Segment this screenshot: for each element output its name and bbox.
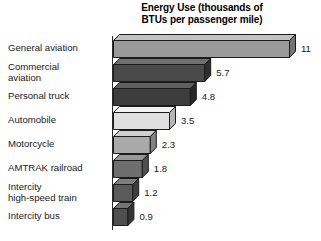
bar-amtrak-railroad	[113, 154, 150, 179]
bar-commercial-aviation	[113, 58, 212, 83]
value-label-intercity-high-speed-train: 1.2	[144, 187, 157, 198]
bar-front-face	[114, 41, 290, 58]
bar-top-face	[114, 59, 211, 65]
bar-motorcycle	[113, 130, 158, 155]
bar-front-face	[114, 209, 128, 226]
value-label-motorcycle: 2.3	[162, 139, 175, 150]
bar-front-face	[114, 161, 143, 178]
bar-top-face	[114, 83, 197, 89]
bar-front-face	[114, 89, 191, 106]
bar-top-face	[114, 35, 296, 41]
bar-intercity-high-speed-train	[113, 178, 140, 203]
value-label-intercity-bus: 0.9	[139, 211, 152, 222]
bar-top-face	[114, 131, 157, 137]
bar-front-face	[114, 185, 133, 202]
bar-general-aviation	[113, 34, 297, 59]
bar-intercity-bus	[113, 202, 135, 227]
bar-top-face	[114, 107, 176, 113]
bar-automobile	[113, 106, 177, 131]
value-label-amtrak-railroad: 1.8	[154, 163, 167, 174]
value-label-commercial-aviation: 5.7	[216, 67, 229, 78]
bar-front-face	[114, 65, 205, 82]
bar-chart: Energy Use (thousands of BTUs per passen…	[0, 0, 321, 241]
plot-area: 115.74.83.52.31.81.20.9	[0, 0, 321, 241]
bar-front-face	[114, 137, 151, 154]
value-label-general-aviation: 11	[301, 43, 311, 54]
bar-personal-truck	[113, 82, 198, 107]
value-label-personal-truck: 4.8	[202, 91, 215, 102]
bar-front-face	[114, 113, 170, 130]
value-label-automobile: 3.5	[181, 115, 194, 126]
